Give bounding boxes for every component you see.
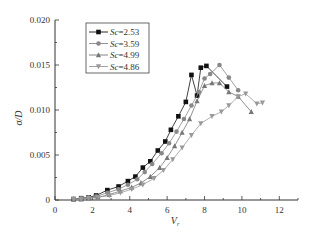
square-marker — [184, 100, 189, 105]
x-tick-label: 6 — [165, 205, 170, 215]
square-marker — [199, 65, 204, 70]
triangle-down-marker — [209, 114, 214, 119]
circle-marker — [227, 75, 232, 80]
triangle-down-marker — [219, 110, 224, 115]
y-axis-title: σ/D — [13, 110, 24, 126]
series-sc-4-86 — [71, 92, 265, 202]
square-marker — [204, 64, 209, 69]
square-marker — [156, 148, 161, 153]
legend: Sc=2.53Sc=3.59Sc=4.99Sc=4.86 — [86, 23, 149, 73]
circle-marker — [189, 103, 194, 108]
y-tick-label: 0 — [46, 195, 51, 205]
triangle-up-marker — [165, 155, 170, 160]
series-sc-4-99 — [71, 80, 254, 201]
x-tick-label: 2 — [90, 205, 95, 215]
circle-icon — [96, 41, 101, 46]
circle-marker — [159, 151, 164, 156]
square-marker — [189, 73, 194, 78]
circle-marker — [174, 129, 179, 134]
x-tick-label: 4 — [128, 205, 133, 215]
legend-label: Sc=2.53 — [110, 27, 140, 37]
circle-marker — [217, 63, 222, 68]
circle-marker — [167, 141, 172, 146]
square-icon — [96, 30, 101, 35]
x-tick-label: 12 — [275, 205, 284, 215]
circle-marker — [202, 76, 207, 81]
triangle-up-marker — [172, 143, 177, 148]
circle-marker — [150, 162, 155, 167]
x-tick-label: 8 — [202, 205, 207, 215]
circle-marker — [208, 72, 213, 77]
circle-marker — [236, 88, 241, 93]
y-tick-label: 0.010 — [30, 105, 51, 115]
legend-label: Sc=4.86 — [110, 62, 140, 72]
series-sc-3-59 — [71, 63, 240, 202]
legend-label: Sc=4.99 — [110, 50, 140, 60]
circle-marker — [135, 177, 140, 182]
triangle-up-marker — [180, 130, 185, 135]
x-axis-title: Vr — [171, 215, 180, 227]
legend-label: Sc=3.59 — [110, 39, 140, 49]
circle-marker — [126, 182, 131, 187]
data-series — [71, 63, 265, 202]
y-tick-label: 0.005 — [30, 150, 51, 160]
triangle-up-marker — [187, 116, 192, 121]
axes: 02468101200.0050.0100.0150.020 — [30, 15, 298, 215]
x-tick-label: 10 — [237, 205, 247, 215]
square-marker — [176, 114, 181, 119]
square-marker — [169, 128, 174, 133]
y-tick-label: 0.015 — [30, 60, 51, 70]
y-tick-label: 0.020 — [30, 15, 51, 25]
chart: 02468101200.0050.0100.0150.020 Sc=2.53Sc… — [0, 0, 312, 243]
circle-marker — [182, 117, 187, 122]
circle-marker — [142, 170, 147, 175]
triangle-down-marker — [254, 101, 259, 106]
square-marker — [141, 165, 146, 170]
x-tick-label: 0 — [53, 205, 58, 215]
